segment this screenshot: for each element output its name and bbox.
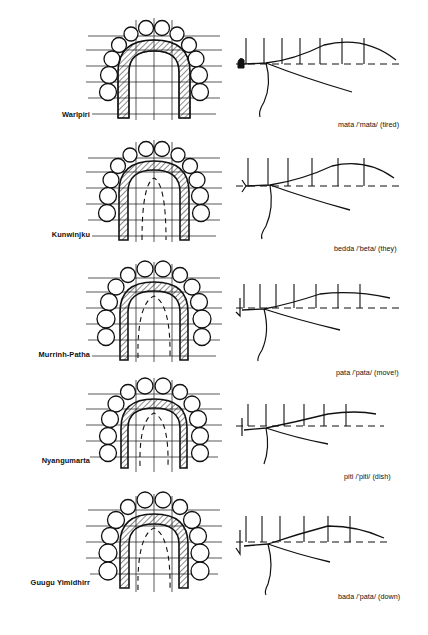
trace-curve-drop: [265, 544, 271, 595]
trace-curve-drop: [262, 185, 272, 239]
articulatory-trace-kunwinjku: [224, 140, 424, 240]
trace-curve-lower: [270, 185, 350, 210]
language-label: Murrinh-Patha: [4, 350, 90, 359]
trace-curve-drop: [258, 309, 267, 361]
trace-curve-main: [238, 58, 244, 68]
trace-curve-lower: [266, 428, 328, 444]
figure-row: Kunwinjku: [0, 136, 428, 254]
figure-row: Warlpiri: [0, 14, 428, 132]
trace-curve-lower: [264, 309, 340, 330]
tick-marks: [248, 404, 346, 426]
palatogram-figure: Warlpiri: [0, 0, 428, 635]
word-caption: bada /'pata/ (down): [338, 592, 400, 601]
word-caption: bedda /'beta/ (they): [334, 244, 397, 253]
tick-marks: [246, 516, 350, 542]
articulatory-trace-murrinh-patha: [224, 262, 424, 362]
trace-curve-onset: [236, 298, 240, 316]
articulatory-trace-warlpiri: [224, 18, 424, 118]
language-label: Nyangumarta: [4, 456, 90, 465]
trace-curve-drop: [260, 63, 269, 117]
palatogram-kunwinjku: [84, 136, 224, 254]
figure-row: Murrinh-Patha: [0, 258, 428, 376]
tick-marks: [248, 158, 364, 186]
trace-curve-upper: [244, 526, 384, 546]
trace-curve-upper: [244, 412, 376, 430]
tick-marks: [244, 284, 360, 308]
word-caption: piti /'piti/ (dish): [344, 472, 391, 481]
figure-row: Nyangumarta: [0, 376, 428, 494]
palatogram-warlpiri: [84, 14, 224, 132]
trace-curve-drop: [264, 428, 268, 464]
figure-row: Guugu Yimidhirr: [0, 492, 428, 610]
language-label: Guugu Yimidhirr: [4, 578, 90, 587]
palatogram-murrinh-patha: [84, 258, 224, 376]
language-label: Kunwinjku: [4, 230, 90, 239]
language-label: Warlpiri: [4, 110, 90, 119]
trace-curve-lower: [268, 544, 330, 562]
articulatory-trace-nyangumarta: [224, 380, 424, 480]
trace-curve-lower: [266, 63, 352, 92]
word-caption: mata /'mata/ (tired): [338, 120, 399, 129]
articulatory-trace-guugu-yimidhirr: [224, 496, 424, 596]
palatogram-nyangumarta: [84, 376, 224, 494]
palatogram-guugu-yimidhirr: [84, 492, 224, 610]
